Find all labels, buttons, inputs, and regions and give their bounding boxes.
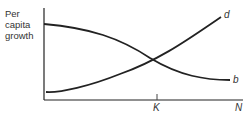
b-label: b xyxy=(233,74,239,85)
n-label: N xyxy=(235,102,242,113)
d-label: d xyxy=(224,9,230,20)
plot-area xyxy=(0,0,247,117)
k-label: K xyxy=(153,102,160,113)
b-curve xyxy=(44,24,230,80)
